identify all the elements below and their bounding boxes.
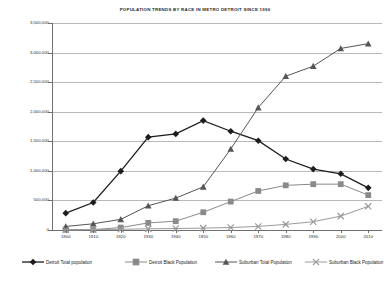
x-axis-tick-label: 1950 — [188, 234, 218, 239]
y-axis-tick-mark — [48, 141, 52, 142]
x-axis-tick-mark — [258, 230, 259, 233]
x-axis-tick-mark — [121, 230, 122, 233]
x-axis-tick-mark — [231, 230, 232, 233]
data-point-marker — [62, 210, 69, 217]
data-point-marker — [310, 63, 317, 69]
legend-label: Detroit Black Population — [149, 260, 197, 265]
series-line — [66, 184, 369, 230]
data-point-marker — [283, 182, 289, 188]
x-axis-tick-label: 1900 — [51, 234, 81, 239]
series-layer — [0, 0, 390, 287]
x-axis-tick-label: 1940 — [161, 234, 191, 239]
legend-square-icon — [125, 257, 147, 267]
population-trends-chart: POPULATION TRENDS BY RACE IN METRO DETRO… — [0, 0, 390, 287]
series-line — [66, 44, 369, 227]
data-point-marker — [200, 117, 207, 124]
y-axis-tick-mark — [48, 230, 52, 231]
y-axis-tick-mark — [48, 200, 52, 201]
data-point-marker — [338, 181, 344, 187]
data-point-marker — [255, 188, 261, 194]
x-axis-tick-mark — [148, 230, 149, 233]
x-axis-tick-mark — [313, 230, 314, 233]
y-axis-tick-label: 0 — [0, 227, 49, 232]
chart-legend: Detroit Total populationDetroit Black Po… — [0, 255, 390, 273]
data-point-marker — [282, 73, 289, 79]
data-point-marker — [310, 181, 316, 187]
x-axis-tick-mark — [341, 230, 342, 233]
x-axis-tick-mark — [93, 230, 94, 233]
x-axis-tick-mark — [176, 230, 177, 233]
y-axis-tick-mark — [48, 53, 52, 54]
y-axis-tick-label: 2,000,000 — [0, 109, 49, 114]
x-axis-tick-label: 1980 — [271, 234, 301, 239]
x-axis-tick-label: 1990 — [298, 234, 328, 239]
data-point-marker — [173, 218, 179, 224]
series-square — [63, 181, 371, 232]
legend-triangle-icon — [215, 257, 237, 267]
data-point-marker — [365, 40, 372, 46]
data-point-marker — [365, 192, 371, 198]
x-axis-tick-mark — [203, 230, 204, 233]
x-axis-tick-mark — [368, 230, 369, 233]
y-axis-tick-label: 3,000,000 — [0, 50, 49, 55]
x-axis-tick-label: 1970 — [243, 234, 273, 239]
series-line — [66, 121, 369, 214]
data-point-marker — [172, 131, 179, 138]
x-axis-tick-label: 2000 — [326, 234, 356, 239]
legend-item-3[interactable]: Suburban Total Population — [215, 255, 292, 269]
data-point-marker — [310, 166, 317, 173]
data-point-marker — [365, 185, 372, 192]
series-diamond — [62, 117, 371, 216]
data-point-marker — [172, 195, 179, 201]
legend-item-1[interactable]: Detroit Total population — [22, 255, 92, 269]
x-axis-tick-label: 1910 — [78, 234, 108, 239]
data-point-marker — [337, 171, 344, 178]
series-line — [66, 206, 369, 229]
x-axis-tick-label: 1920 — [106, 234, 136, 239]
x-axis-tick-mark — [286, 230, 287, 233]
y-axis-tick-mark — [48, 112, 52, 113]
data-point-marker — [227, 128, 234, 135]
y-axis-tick-label: 2,500,000 — [0, 79, 49, 84]
x-axis-tick-label: 1930 — [133, 234, 163, 239]
y-axis-tick-mark — [48, 23, 52, 24]
legend-label: Suburban Total Population — [239, 260, 292, 265]
x-axis-tick-label: 2010 — [353, 234, 383, 239]
y-axis-tick-label: 1,500,000 — [0, 138, 49, 143]
legend-x-icon — [305, 257, 327, 267]
y-axis-tick-mark — [48, 171, 52, 172]
y-axis-tick-label: 500,000 — [0, 197, 49, 202]
data-point-marker — [145, 220, 151, 226]
legend-diamond-icon — [22, 257, 44, 267]
data-point-marker — [365, 203, 371, 209]
y-axis-tick-label: 1,000,000 — [0, 168, 49, 173]
data-point-marker — [200, 209, 206, 215]
x-axis-tick-mark — [66, 230, 67, 233]
series-triangle — [62, 40, 371, 229]
legend-label: Suburban Black Population — [329, 260, 383, 265]
legend-label: Detroit Total population — [46, 260, 92, 265]
data-point-marker — [117, 216, 124, 222]
data-point-marker — [228, 199, 234, 205]
y-axis-tick-mark — [48, 82, 52, 83]
data-point-marker — [227, 146, 234, 152]
legend-item-4[interactable]: Suburban Black Population — [305, 255, 383, 269]
y-axis-tick-label: 3,500,000 — [0, 20, 49, 25]
legend-item-2[interactable]: Detroit Black Population — [125, 255, 197, 269]
x-axis-tick-label: 1960 — [216, 234, 246, 239]
